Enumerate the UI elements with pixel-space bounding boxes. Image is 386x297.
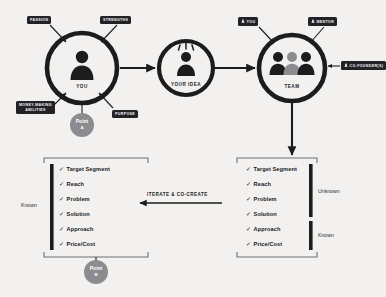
point-b-label: Point B	[76, 266, 116, 277]
point-b-sub: B	[76, 272, 116, 277]
three-people-icon	[270, 52, 315, 75]
tag-passion[interactable]: PASSION	[27, 16, 51, 24]
list-item[interactable]: ✓Reach	[246, 181, 271, 187]
list-item[interactable]: ✓Solution	[246, 211, 277, 217]
check-icon: ✓	[59, 166, 64, 172]
right-known-bracket-label: Known	[318, 232, 334, 238]
left-panel-top-bracket	[44, 158, 148, 163]
left-item-1-label: Reach	[67, 181, 84, 187]
list-item[interactable]: ✓Price/Cost	[59, 241, 95, 247]
check-icon: ✓	[59, 211, 64, 217]
node-label-team: TEAM	[272, 84, 312, 89]
list-item[interactable]: ✓Reach	[59, 181, 84, 187]
list-item[interactable]: ✓Solution	[59, 211, 90, 217]
tag-purpose[interactable]: PURPOSE	[112, 110, 138, 118]
right-item-3-label: Solution	[254, 211, 277, 217]
tag-team-cofounder[interactable]: CO-FOUNDER(S)	[341, 61, 386, 70]
right-unknown-bar	[309, 164, 313, 217]
person-badge-icon	[344, 63, 348, 67]
left-item-0-label: Target Segment	[67, 166, 110, 172]
check-icon: ✓	[246, 181, 251, 187]
point-b-title: Point	[90, 265, 103, 271]
left-item-5-label: Price/Cost	[67, 241, 96, 247]
tag-team-you-label: YOU	[247, 20, 256, 24]
check-icon: ✓	[59, 196, 64, 202]
list-item[interactable]: ✓Approach	[246, 226, 281, 232]
check-icon: ✓	[59, 241, 64, 247]
point-a-sub: A	[62, 125, 102, 130]
tag-strengths[interactable]: STRENGTHS	[100, 16, 131, 24]
connector-team-mentor	[310, 27, 324, 43]
left-known-bar	[50, 164, 54, 250]
point-a-title: Point	[76, 118, 89, 124]
person-badge-icon	[311, 19, 315, 23]
list-item[interactable]: ✓Target Segment	[246, 166, 297, 172]
list-item[interactable]: ✓Price/Cost	[246, 241, 282, 247]
right-panel-bottom-bracket	[237, 252, 317, 257]
right-known-bar	[309, 221, 313, 250]
check-icon: ✓	[246, 196, 251, 202]
tag-team-mentor-label: MENTOR	[317, 20, 335, 24]
connector-strengths	[101, 25, 117, 42]
tag-team-mentor[interactable]: MENTOR	[308, 17, 337, 26]
tag-money-making-abilities-line2: ABILITIES	[25, 108, 46, 112]
check-icon: ✓	[246, 166, 251, 172]
right-item-1-label: Reach	[254, 181, 271, 187]
list-item[interactable]: ✓Target Segment	[59, 166, 110, 172]
list-item[interactable]: ✓Problem	[246, 196, 277, 202]
check-icon: ✓	[59, 181, 64, 187]
left-item-3-label: Solution	[67, 211, 90, 217]
node-label-you: YOU	[62, 84, 102, 89]
left-item-2-label: Problem	[67, 196, 90, 202]
right-item-5-label: Price/Cost	[254, 241, 283, 247]
check-icon: ✓	[246, 241, 251, 247]
point-a-label: Point A	[62, 119, 102, 130]
check-icon: ✓	[59, 226, 64, 232]
tag-team-cofounder-label: CO-FOUNDER(S)	[350, 64, 384, 68]
person-badge-icon	[241, 19, 245, 23]
connector-team-you	[259, 27, 274, 43]
person-with-idea-icon	[177, 44, 195, 77]
check-icon: ✓	[246, 226, 251, 232]
right-panel-top-bracket	[237, 158, 317, 163]
right-item-4-label: Approach	[254, 226, 281, 232]
right-item-2-label: Problem	[254, 196, 277, 202]
list-item[interactable]: ✓Problem	[59, 196, 90, 202]
list-item[interactable]: ✓Approach	[59, 226, 94, 232]
left-item-4-label: Approach	[67, 226, 94, 232]
single-person-icon	[71, 51, 94, 80]
left-known-bracket-label: Known	[21, 202, 37, 208]
tag-money-making-abilities-line1: MONEY-MAKING	[19, 103, 52, 107]
right-unknown-bracket-label: Unknown	[318, 188, 340, 194]
tag-money-making-abilities[interactable]: MONEY-MAKING ABILITIES	[16, 101, 55, 114]
right-item-0-label: Target Segment	[254, 166, 297, 172]
left-panel-bottom-bracket	[44, 252, 148, 257]
iterate-arrow-label: ITERATE & CO-CREATE	[147, 192, 208, 197]
check-icon: ✓	[246, 211, 251, 217]
node-label-your-idea: YOUR IDEA	[161, 82, 211, 87]
tag-team-you[interactable]: YOU	[238, 17, 258, 26]
